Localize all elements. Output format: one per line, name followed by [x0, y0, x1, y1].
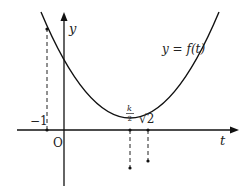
point-sqrt2-curve [146, 159, 149, 162]
curve-label: y = f(t) [161, 42, 205, 56]
point-k-axis [128, 128, 131, 131]
t-axis-label: t [220, 133, 226, 148]
t-axis-arrow-icon [230, 127, 239, 134]
y-axis-label: y [68, 21, 77, 36]
point-sqrt2-axis [146, 128, 149, 131]
tick-k-denominator: 2 [128, 115, 132, 123]
curve-f [41, 12, 219, 118]
graph-figure: y t O −1 k 2 √2 y = f(t) [0, 0, 247, 195]
parabola-graph: y t O −1 k 2 √2 y = f(t) [0, 0, 247, 195]
origin-label: O [53, 136, 63, 150]
tick-k-numerator: k [127, 104, 132, 113]
point-vertex [128, 166, 131, 169]
tick-sqrt2-label: √2 [139, 112, 154, 126]
y-axis-arrow-icon [61, 12, 68, 21]
point-neg1-axis [45, 128, 48, 131]
point-neg1-curve [45, 27, 48, 30]
tick-neg1-label: −1 [30, 114, 48, 128]
